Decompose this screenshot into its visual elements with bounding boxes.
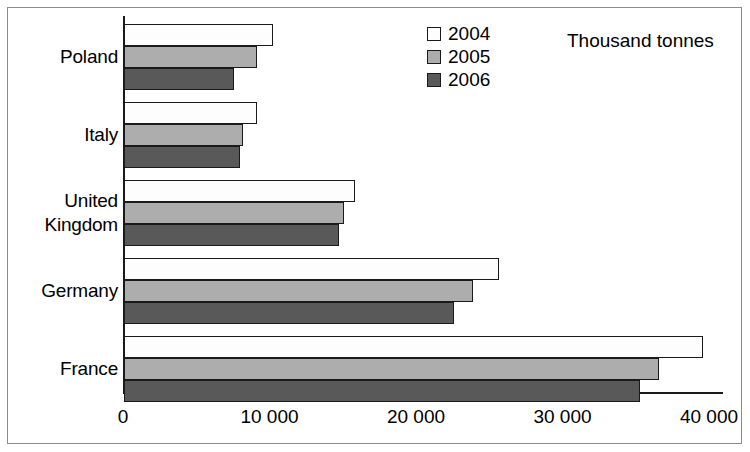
bar-2004-united-kingdom (124, 180, 355, 202)
bar-2005-germany (124, 280, 473, 302)
unit-label: Thousand tonnes (567, 30, 714, 52)
x-tick-label-20000: 20 000 (387, 406, 445, 428)
legend-item-2006: 2006 (427, 68, 517, 91)
bar-2005-poland (124, 46, 257, 68)
legend-swatch-icon-2006 (427, 73, 441, 87)
x-axis-tick-labels: 010 00020 00030 00040 000 (0, 406, 750, 436)
category-label-line: France (2, 357, 118, 381)
x-tick-label-10000: 10 000 (240, 406, 298, 428)
bar-2004-germany (124, 258, 499, 280)
category-label-poland: Poland (2, 45, 118, 69)
bar-2006-germany (124, 302, 454, 324)
bar-2004-poland (124, 24, 273, 46)
x-tick-label-40000: 40 000 (680, 406, 738, 428)
bar-chart: PolandItalyUnitedKingdomGermanyFrance 01… (0, 0, 750, 452)
category-label-line: Germany (2, 279, 118, 303)
bar-2006-italy (124, 146, 240, 168)
bar-2005-united-kingdom (124, 202, 344, 224)
bar-2005-italy (124, 124, 243, 146)
legend-swatch-icon-2004 (427, 27, 441, 41)
category-label-france: France (2, 357, 118, 381)
category-label-line: Kingdom (2, 213, 118, 237)
x-tick-label-0: 0 (118, 406, 129, 428)
legend-swatch-icon-2005 (427, 50, 441, 64)
bar-group (124, 258, 710, 324)
bar-2006-poland (124, 68, 234, 90)
category-label-united-kingdom: UnitedKingdom (2, 189, 118, 237)
legend-label-2006: 2006 (448, 70, 490, 89)
x-tick-label-30000: 30 000 (533, 406, 591, 428)
legend-label-2005: 2005 (448, 47, 490, 66)
category-label-germany: Germany (2, 279, 118, 303)
bar-group (124, 180, 710, 246)
category-label-italy: Italy (2, 123, 118, 147)
bar-2005-france (124, 358, 659, 380)
bar-group (124, 336, 710, 402)
category-label-line: Poland (2, 45, 118, 69)
category-axis-labels: PolandItalyUnitedKingdomGermanyFrance (0, 16, 118, 393)
bar-2004-france (124, 336, 703, 358)
bar-2006-france (124, 380, 640, 402)
plot-area (124, 16, 710, 393)
category-label-line: United (2, 189, 118, 213)
legend-item-2005: 2005 (427, 45, 517, 68)
bar-group (124, 102, 710, 168)
legend-item-2004: 2004 (427, 22, 517, 45)
chart-legend: 2004 2005 2006 (427, 22, 517, 91)
category-label-line: Italy (2, 123, 118, 147)
bar-2006-united-kingdom (124, 224, 339, 246)
bar-2004-italy (124, 102, 257, 124)
legend-label-2004: 2004 (448, 24, 490, 43)
